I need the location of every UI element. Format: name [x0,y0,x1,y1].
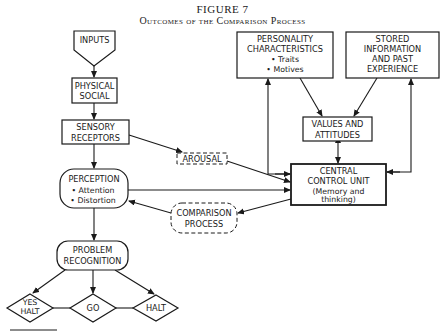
traits-label: • Traits [271,55,299,64]
personality-label: PERSONALITY [257,34,314,44]
flow-diagram: INPUTS PHYSICAL SOCIAL SENSORY RECEPTORS… [0,0,445,333]
edge-central-stored [387,79,411,172]
edge-central-personality [268,79,290,174]
and-past-label: AND PAST [372,54,414,64]
edge-personality-values [300,78,322,116]
information-label: INFORMATION [364,44,421,54]
edge-problem-halt [115,270,154,294]
edge-sensory-arousal [129,135,182,152]
sensory-label: SENSORY [76,122,115,132]
node-arousal: AROUSAL [177,153,227,164]
halt-sub-label: HALT [20,307,39,316]
control-unit-label: CONTROL UNIT [307,176,370,186]
node-values-attitudes: VALUES AND ATTITUDES [303,117,372,141]
thinking-label: thinking) [321,195,356,204]
attitudes-label: ATTITUDES [315,130,360,140]
stored-label: STORED [376,34,410,44]
arousal-label: AROUSAL [182,154,222,164]
node-comparison-process: COMPARISON PROCESS [171,203,237,233]
node-problem-recognition: PROBLEM RECOGNITION [57,241,128,270]
characteristics-label: CHARACTERISTICS [247,44,323,54]
social-label: SOCIAL [80,91,110,101]
edge-comparison-perception [129,201,171,213]
halt-label: HALT [146,303,167,313]
perception-label: PERCEPTION [68,174,119,184]
recognition-label: RECOGNITION [64,256,122,266]
experience-label: EXPERIENCE [367,64,418,74]
problem-label: PROBLEM [73,245,113,255]
node-yes-halt: YES HALT [7,294,53,322]
go-label: GO [87,303,100,313]
edge-arousal-central [227,161,290,182]
node-go: GO [70,294,116,322]
physical-label: PHYSICAL [75,81,115,91]
central-label: CENTRAL [320,166,358,176]
distortion-label: • Distortion [70,196,115,205]
comparison-label: COMPARISON [176,208,231,218]
edge-central-comparison [238,199,291,213]
process-label: PROCESS [185,219,223,229]
node-central-control: CENTRAL CONTROL UNIT (Memory and thinkin… [291,164,386,205]
node-inputs: INPUTS [74,31,115,66]
edge-problem-yeshalt [33,270,65,293]
receptors-label: RECEPTORS [71,133,120,143]
edge-stored-values [354,78,377,116]
node-perception: PERCEPTION • Attention • Distortion [60,169,128,208]
node-physical-social: PHYSICAL SOCIAL [72,78,117,103]
yes-label: YES [22,298,38,307]
motives-label: • Motives [266,65,303,74]
node-personality: PERSONALITY CHARACTERISTICS • Traits • M… [237,32,333,78]
node-halt: HALT [133,295,178,321]
values-label: VALUES AND [312,119,364,129]
node-stored-information: STORED INFORMATION AND PAST EXPERIENCE [346,32,439,78]
inputs-label: INPUTS [80,35,110,45]
attention-label: • Attention [71,186,114,195]
node-sensory-receptors: SENSORY RECEPTORS [62,120,129,144]
